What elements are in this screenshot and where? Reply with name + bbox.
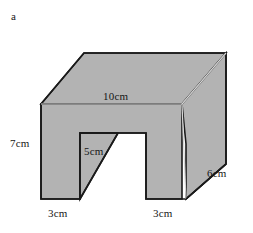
dimension-label-top-length: 10cm <box>103 91 128 102</box>
dimension-label-notch-height: 5cm <box>84 146 104 157</box>
dimension-label-foot-right: 3cm <box>153 208 173 219</box>
front-face <box>41 104 182 199</box>
dimension-label-depth: 6cm <box>207 168 227 179</box>
dimension-label-left-height: 7cm <box>10 138 30 149</box>
geometry-figure: a 10cm 7cm 5cm 6cm 3cm 3cm <box>0 0 253 233</box>
dimension-label-foot-left: 3cm <box>48 208 68 219</box>
part-label-a: a <box>11 11 16 22</box>
solid-shape-drawing <box>0 0 253 233</box>
